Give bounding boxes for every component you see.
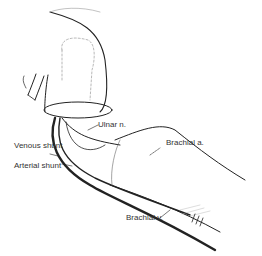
label-brachial-vein: Brachial v. <box>126 214 163 222</box>
label-brachial-artery: Brachial a. <box>166 139 204 147</box>
label-arterial-shunt: Arterial shunt <box>14 162 61 170</box>
label-ulnar-nerve: Ulnar n. <box>98 121 126 129</box>
label-venous-shunt: Venous shunt <box>14 142 62 150</box>
shunt-diagram: Ulnar n. Venous shunt Arterial shunt Bra… <box>0 0 262 256</box>
